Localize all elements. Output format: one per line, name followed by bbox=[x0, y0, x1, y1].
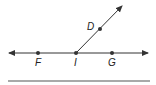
geometry-diagram: D F I G bbox=[0, 0, 156, 85]
point-d bbox=[98, 27, 102, 31]
point-i bbox=[74, 51, 78, 55]
label-f: F bbox=[35, 57, 42, 68]
point-g bbox=[110, 51, 114, 55]
label-g: G bbox=[108, 57, 116, 68]
label-d: D bbox=[87, 21, 94, 32]
point-f bbox=[36, 51, 40, 55]
label-i: I bbox=[74, 57, 77, 68]
